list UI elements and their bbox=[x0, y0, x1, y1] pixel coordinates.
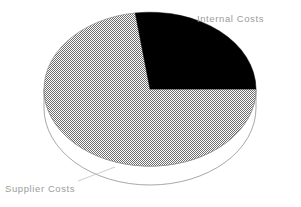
label-internal-costs: Internal Costs bbox=[197, 13, 264, 24]
label-supplier-costs: Supplier Costs bbox=[5, 183, 75, 194]
pie-chart-canvas: Internal Costs Supplier Costs bbox=[0, 0, 301, 207]
pie-chart-figure: Internal Costs Supplier Costs bbox=[0, 0, 301, 207]
